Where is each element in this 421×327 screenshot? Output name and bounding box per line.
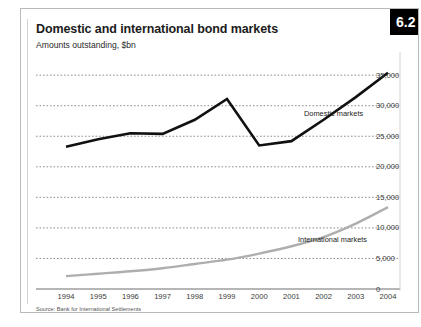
x-axis-tick-label: 1999 xyxy=(219,292,236,301)
y-axis-tick-label: 5,000 xyxy=(376,254,395,263)
x-axis-tick-label: 1997 xyxy=(154,292,171,301)
x-axis-tick-label: 2001 xyxy=(283,292,300,301)
series-label-domestic: Domestic markets xyxy=(304,109,363,118)
source-note: Source: Bank for International Settlemen… xyxy=(36,306,141,312)
x-axis-tick-label: 1996 xyxy=(122,292,139,301)
y-axis-tick-label: 10,000 xyxy=(376,223,399,232)
x-axis-tick-label: 2004 xyxy=(380,292,397,301)
figure-number-badge: 6.2 xyxy=(390,9,419,35)
chart-title: Domestic and international bond markets xyxy=(36,22,278,36)
series-label-international: International markets xyxy=(298,235,367,244)
y-axis-tick-label: 30,000 xyxy=(376,101,399,110)
y-axis-tick-label: 35,000 xyxy=(376,71,399,80)
left-rule-divider xyxy=(27,19,28,304)
series-group xyxy=(66,73,388,276)
x-axis-tick-label: 2002 xyxy=(315,292,332,301)
x-axis-tick-label: 1998 xyxy=(186,292,203,301)
x-axis-labels: 1994199519961997199819992000200120022003… xyxy=(36,292,381,306)
y-axis-labels: 05,00010,00015,00020,00025,00030,00035,0… xyxy=(376,47,419,297)
screenshot-root: 6.2 Domestic and international bond mark… xyxy=(0,0,421,327)
y-axis-tick-label: 20,000 xyxy=(376,162,399,171)
x-axis-tick-label: 1995 xyxy=(90,292,107,301)
x-axis-tick-label: 2003 xyxy=(347,292,364,301)
plot-area xyxy=(36,47,404,292)
x-axis-tick-label: 2000 xyxy=(251,292,268,301)
y-axis-tick-label: 25,000 xyxy=(376,132,399,141)
y-axis-tick-label: 15,000 xyxy=(376,193,399,202)
x-axis-tick-label: 1994 xyxy=(58,292,75,301)
line-chart-svg xyxy=(36,47,404,292)
chart-card: 6.2 Domestic and international bond mark… xyxy=(20,8,419,313)
gridlines-group xyxy=(36,75,400,289)
